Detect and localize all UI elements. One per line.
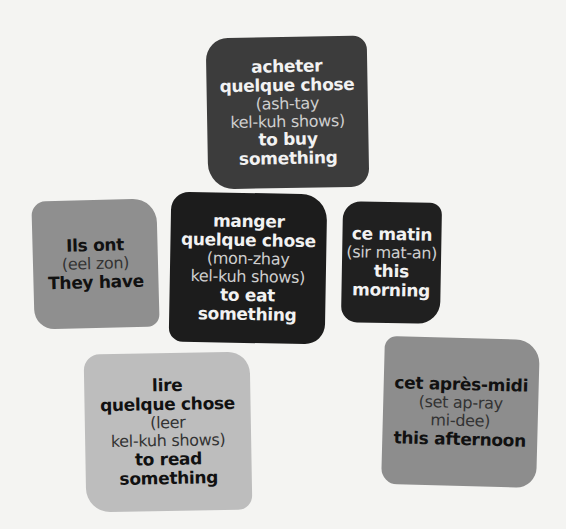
french-term: quelque chose (181, 230, 316, 251)
french-term: quelque chose (219, 74, 354, 95)
pronunciation: kel-kuh shows) (190, 267, 305, 287)
english-translation: this morning (341, 261, 441, 301)
vocab-card-ce-matin: ce matin (sir mat-an) this morning (341, 201, 442, 324)
english-translation: something (198, 304, 297, 325)
pronunciation: (leer (150, 414, 186, 433)
vocab-card-cet-apres-midi: cet après-midi (set ap-ray mi-dee) this … (381, 336, 540, 488)
french-term: lire (152, 376, 183, 396)
english-translation: this afternoon (393, 428, 526, 450)
english-translation: to eat (220, 285, 275, 305)
vocab-card-acheter: acheter quelque chose (ash-tay kel-kuh s… (206, 36, 370, 190)
french-term: quelque chose (100, 394, 235, 415)
pronunciation: kel-kuh shows) (111, 431, 226, 451)
english-translation: something (119, 468, 218, 489)
pronunciation: (sir mat-an) (346, 243, 437, 262)
english-translation: They have (48, 272, 144, 294)
vocab-card-manger: manger quelque chose (mon-zhay kel-kuh s… (169, 192, 328, 345)
vocab-card-lire: lire quelque chose (leer kel-kuh shows) … (84, 352, 253, 513)
pronunciation: (ash-tay (255, 94, 319, 113)
english-translation: something (239, 149, 338, 170)
english-translation: to read (135, 449, 203, 469)
french-term: acheter (251, 56, 322, 76)
vocab-card-ils-ont: Ils ont (eel zon) They have (31, 198, 159, 329)
english-translation: to buy (258, 130, 318, 150)
